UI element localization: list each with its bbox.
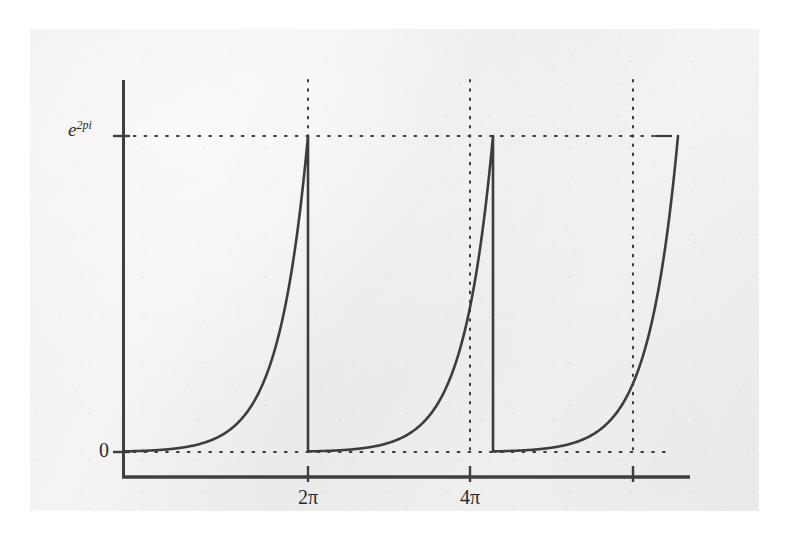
y-axis-label-max: e2pi (68, 120, 92, 139)
data-curve (123, 136, 678, 451)
x-axis-label-2pi: 2π (298, 486, 318, 509)
plot-area (0, 0, 791, 540)
figure-canvas: e2pi 0 2π 4π (0, 0, 791, 540)
y-axis-label-zero: 0 (99, 440, 109, 460)
x-axis-label-4pi: 4π (460, 486, 480, 509)
y-axis-label-max-exponent: 2pi (76, 118, 91, 132)
